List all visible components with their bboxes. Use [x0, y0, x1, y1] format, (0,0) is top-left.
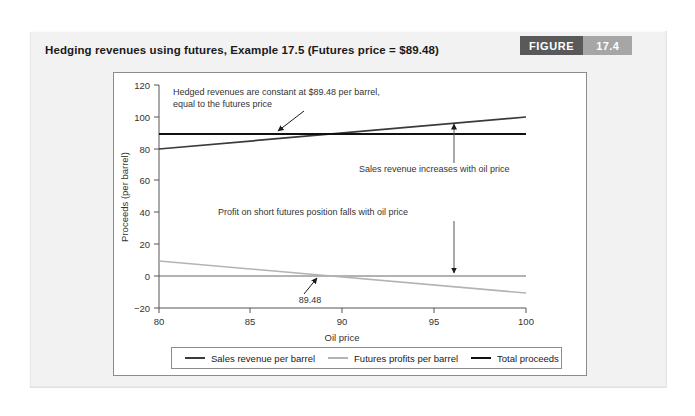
legend-label-total-proceeds: Total proceeds [497, 353, 559, 364]
x-tick-100: 100 [518, 316, 534, 327]
x-tick-85: 85 [245, 316, 256, 327]
chart-legend: Sales revenue per barrel Futures profits… [171, 347, 562, 369]
annotation-sales-revenue: Sales revenue increases with oil price [359, 124, 510, 174]
svg-text:Hedged revenues are constant a: Hedged revenues are constant at $89.48 p… [173, 87, 380, 97]
y-tick-120: 120 [134, 80, 150, 91]
legend-swatch-sales-revenue [185, 357, 205, 359]
x-axis-title: Oil price [325, 332, 360, 343]
annotation-breakeven: 89.48 [299, 278, 322, 305]
x-tick-80: 80 [154, 316, 165, 327]
legend-swatch-futures-profits [328, 357, 348, 359]
annotation-arrow-breakeven [304, 278, 317, 294]
figure-title: Hedging revenues using futures, Example … [45, 44, 439, 56]
y-tick-40: 40 [139, 207, 150, 218]
x-tick-labels: 80 85 90 95 100 [154, 316, 534, 327]
y-tick-80: 80 [139, 144, 150, 155]
svg-text:Profit on short futures positi: Profit on short futures position falls w… [218, 207, 408, 217]
figure-badge-number: 17.4 [583, 36, 632, 55]
svg-text:equal to the futures price: equal to the futures price [173, 99, 272, 109]
x-tick-90: 90 [337, 316, 348, 327]
line-chart: 120 100 80 60 40 20 0 −20 Proceeds (per … [114, 73, 586, 375]
y-tick-0: 0 [145, 271, 150, 282]
y-tick-100: 100 [134, 112, 150, 123]
annotation-arrow-hedged [278, 111, 304, 131]
legend-swatch-total-proceeds [471, 357, 491, 359]
annotation-futures-profit: Profit on short futures position falls w… [218, 207, 454, 273]
legend-item-futures-profits: Futures profits per barrel [328, 353, 458, 364]
legend-item-total-proceeds: Total proceeds [471, 353, 559, 364]
chart-card: 120 100 80 60 40 20 0 −20 Proceeds (per … [113, 72, 587, 376]
svg-text:89.48: 89.48 [299, 295, 322, 305]
y-axis [154, 85, 159, 308]
x-axis [159, 308, 526, 313]
figure-badge: FIGURE 17.4 [520, 36, 632, 55]
y-axis-title: Proceeds (per barrel) [119, 152, 130, 242]
y-tick-20: 20 [139, 239, 150, 250]
figure-page: Hedging revenues using futures, Example … [0, 0, 695, 416]
y-tick-neg20: −20 [134, 303, 150, 314]
y-tick-labels: 120 100 80 60 40 20 0 −20 [134, 80, 150, 314]
y-tick-60: 60 [139, 175, 150, 186]
figure-badge-word: FIGURE [520, 36, 583, 55]
legend-item-sales-revenue: Sales revenue per barrel [185, 353, 315, 364]
legend-label-sales-revenue: Sales revenue per barrel [211, 353, 315, 364]
series-line-futures-profits [159, 261, 526, 293]
x-tick-95: 95 [429, 316, 440, 327]
svg-text:Sales revenue increases with o: Sales revenue increases with oil price [359, 164, 510, 174]
annotation-hedged-revenues: Hedged revenues are constant at $89.48 p… [173, 87, 380, 131]
legend-label-futures-profits: Futures profits per barrel [354, 353, 458, 364]
